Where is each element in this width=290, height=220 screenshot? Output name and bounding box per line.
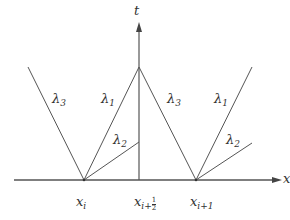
tick-label-xi1: xi+1: [190, 195, 214, 211]
label-left-lambda1: λ1: [101, 92, 115, 108]
label-left-lambda3: λ3: [52, 92, 66, 108]
wave-diagram: [0, 0, 290, 220]
label-right-lambda1: λ1: [214, 92, 228, 108]
xi1-node: [195, 179, 198, 182]
t-axis-arrow-icon: [136, 22, 142, 32]
label-left-lambda2: λ2: [113, 133, 127, 149]
xi-node: [83, 179, 86, 182]
lambda1-from-xi1: [196, 67, 252, 180]
lambda3-to-xi1: [139, 67, 196, 180]
lambda3-left-wave: [28, 67, 84, 180]
t-axis-label: t: [134, 4, 139, 17]
label-right-lambda2: λ2: [226, 133, 240, 149]
label-right-lambda3: λ3: [167, 92, 181, 108]
tick-label-xi-half: xi+12: [134, 195, 156, 212]
lambda2-from-xi1: [196, 143, 252, 180]
lambda1-from-xi: [84, 67, 139, 180]
x-axis-label: x: [283, 172, 290, 185]
tick-label-xi: xi: [76, 195, 86, 211]
lambda2-from-xi: [84, 142, 139, 180]
x-axis-arrow-icon: [272, 177, 282, 183]
